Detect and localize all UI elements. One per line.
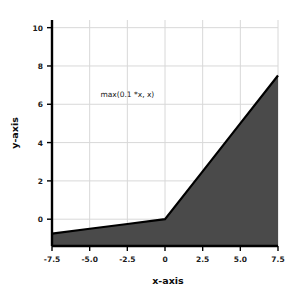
x-tick-label--5.0: -5.0 (81, 255, 97, 264)
chart-canvas: 0 2 4 6 8 10 -7.5 -5.0 -2.5 0 2.5 5.0 7.… (0, 0, 296, 293)
y-tick-label-8: 8 (38, 62, 43, 71)
x-axis-tick-labels: -7.5 -5.0 -2.5 0 2.5 5.0 7.5 (44, 255, 285, 264)
series-annotation-label: max(0.1 *x, x) (100, 90, 154, 99)
x-tick-label-2.5: 2.5 (196, 255, 209, 264)
y-axis-tick-labels: 0 2 4 6 8 10 (33, 24, 43, 225)
chart-figure: 0 2 4 6 8 10 -7.5 -5.0 -2.5 0 2.5 5.0 7.… (0, 0, 296, 293)
y-tick-label-2: 2 (38, 177, 43, 186)
x-tick-label--2.5: -2.5 (119, 255, 135, 264)
y-axis-title: y-axis (9, 117, 20, 149)
x-tick-label-7.5: 7.5 (271, 255, 284, 264)
x-tick-label-5.0: 5.0 (234, 255, 247, 264)
x-tick-label--7.5: -7.5 (44, 255, 60, 264)
x-axis-title: x-axis (152, 275, 184, 286)
y-tick-label-4: 4 (38, 139, 43, 148)
x-tick-label-0: 0 (162, 255, 167, 264)
y-tick-label-10: 10 (33, 24, 43, 33)
y-tick-label-6: 6 (38, 100, 43, 109)
y-tick-label-0: 0 (38, 215, 43, 224)
